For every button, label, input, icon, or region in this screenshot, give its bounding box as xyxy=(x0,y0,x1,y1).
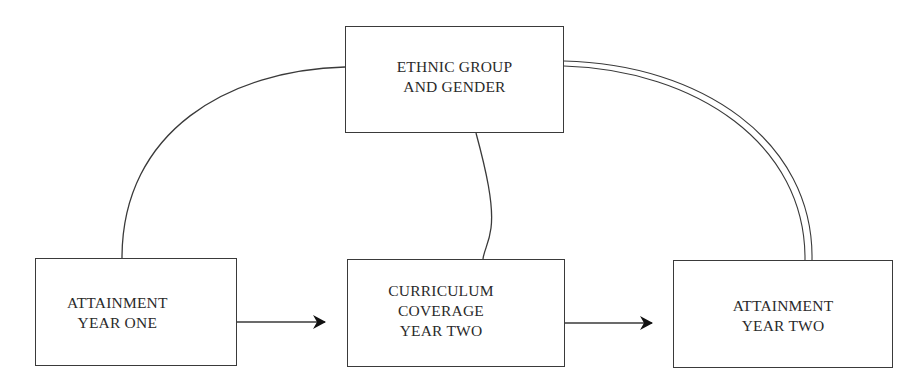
edge-ethnic-to-attainment-y2-outer xyxy=(564,61,812,260)
node-label: CURRICULUM COVERAGE YEAR TWO xyxy=(388,281,493,341)
path-diagram: ETHNIC GROUP AND GENDER ATTAINMENT YEAR … xyxy=(0,0,923,391)
node-curriculum-coverage-year-two: CURRICULUM COVERAGE YEAR TWO xyxy=(347,259,565,367)
node-attainment-year-two: ATTAINMENT YEAR TWO xyxy=(673,260,893,368)
node-attainment-year-one: ATTAINMENT YEAR ONE xyxy=(35,258,237,366)
node-ethnic-group-and-gender: ETHNIC GROUP AND GENDER xyxy=(345,26,564,133)
node-label: ATTAINMENT YEAR ONE xyxy=(67,293,168,333)
edge-ethnic-to-attainment-y2-inner xyxy=(564,66,805,260)
node-label: ATTAINMENT YEAR TWO xyxy=(733,296,834,336)
node-label: ETHNIC GROUP AND GENDER xyxy=(397,57,513,97)
edge-ethnic-to-attainment-y1 xyxy=(122,67,345,258)
edge-ethnic-to-curriculum xyxy=(476,133,492,259)
